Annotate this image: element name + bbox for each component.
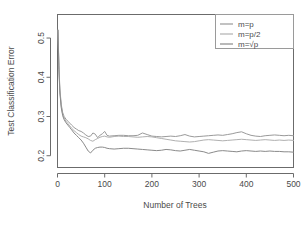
y-axis-tick-label: 0.4 [36, 71, 46, 83]
x-axis-tick-label: 400 [239, 179, 253, 189]
x-axis-tick-label: 0 [55, 179, 60, 189]
x-axis-tick-label: 200 [145, 179, 159, 189]
x-axis-tick-label: 100 [98, 179, 112, 189]
legend-label-2: m=√p [238, 40, 259, 49]
y-axis-tick-label: 0.5 [36, 32, 46, 44]
x-axis-tick-label: 500 [286, 179, 300, 189]
x-axis-tick-label: 300 [192, 179, 206, 189]
y-axis-tick-label: 0.3 [36, 110, 46, 122]
x-axis-title: Number of Trees [143, 200, 206, 210]
y-axis-title: Test Classification Error [6, 46, 16, 135]
legend-label-0: m=p [238, 20, 254, 29]
chart-legend: m=pm=p/2m=√p [216, 15, 294, 50]
y-axis-tick-label: 0.2 [36, 150, 46, 162]
legend-label-1: m=p/2 [238, 30, 261, 39]
chart-figure: 0.20.30.40.5 0100200300400500 Number of … [0, 0, 301, 225]
test-classification-error-line-chart: 0.20.30.40.5 0100200300400500 Number of … [0, 0, 301, 225]
